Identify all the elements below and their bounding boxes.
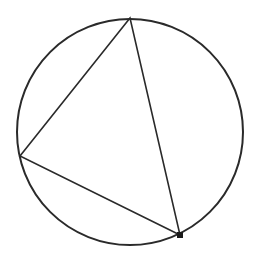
inscribed-triangle-diagram — [0, 0, 255, 257]
marked-vertex-point — [177, 232, 183, 238]
inscribed-triangle — [20, 18, 180, 235]
